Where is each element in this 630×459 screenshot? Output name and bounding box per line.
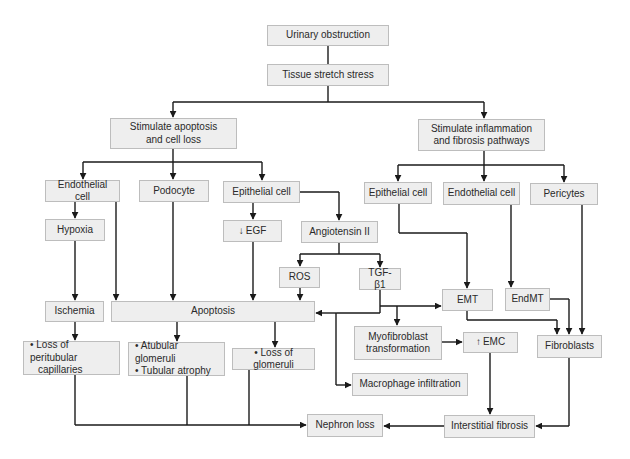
node-atubular-tubular: • Atubular glomeruli • Tubular atrophy (128, 342, 225, 376)
node-label: Urinary obstruction (286, 29, 370, 42)
node-label: Fibroblasts (545, 340, 594, 353)
node-label-line2: and fibrosis pathways (431, 135, 532, 148)
node-urinary-obstruction: Urinary obstruction (267, 25, 389, 46)
node-ischemia: Ischemia (45, 301, 104, 322)
node-nephron-loss: Nephron loss (307, 414, 383, 437)
node-label-line1: Stimulate apoptosis (130, 121, 217, 134)
node-epithelial-cell-left: Epithelial cell (223, 181, 300, 203)
node-label: Podocyte (153, 185, 195, 198)
node-label: Angiotensin II (309, 226, 370, 239)
node-endothelial-cell-left: Endothelial cell (45, 180, 120, 202)
node-apoptosis: Apoptosis (111, 301, 315, 322)
node-label: Epithelial cell (232, 186, 290, 199)
node-label-line2: capillaries (30, 364, 116, 377)
node-macrophage-infiltration: Macrophage infiltration (352, 373, 468, 396)
node-label: EMT (457, 294, 478, 307)
node-podocyte: Podocyte (139, 180, 209, 202)
node-label-line1: Stimulate inflammation (431, 123, 532, 136)
node-label-line2: transformation (366, 343, 430, 356)
node-label: EndMT (511, 293, 543, 306)
node-label: ROS (289, 271, 311, 284)
node-ros: ROS (279, 267, 320, 288)
node-label: TGF-β1 (363, 267, 397, 292)
node-loss-peritubular-capillaries: • Loss of peritubular capillaries (23, 341, 120, 375)
node-label: Nephron loss (316, 419, 375, 432)
flowchart-canvas: Urinary obstruction Tissue stretch stres… (0, 0, 630, 459)
node-label: Pericytes (543, 188, 584, 201)
node-interstitial-fibrosis: Interstitial fibrosis (444, 415, 535, 438)
node-endothelial-cell-right: Endothelial cell (443, 182, 520, 205)
node-fibroblasts: Fibroblasts (537, 335, 602, 358)
node-angiotensin-ii: Angiotensin II (301, 221, 378, 243)
node-stimulate-apoptosis: Stimulate apoptosis and cell loss (110, 118, 237, 149)
node-label: EMC (483, 336, 505, 349)
node-label-line1: • Loss of peritubular (30, 339, 116, 364)
node-label-line2: and cell loss (130, 134, 217, 147)
node-stimulate-inflammation: Stimulate inflammation and fibrosis path… (418, 119, 545, 151)
node-label-line1: Myofibroblast (366, 331, 430, 344)
node-label: Ischemia (54, 305, 94, 318)
up-arrow-icon: ↑ (476, 336, 481, 349)
node-label: Apoptosis (191, 305, 235, 318)
node-label: • Loss of glomeruli (236, 347, 311, 372)
node-hypoxia: Hypoxia (45, 219, 105, 241)
node-tissue-stretch-stress: Tissue stretch stress (267, 64, 389, 86)
node-label: Interstitial fibrosis (451, 420, 528, 433)
node-tgf-beta1: TGF-β1 (359, 268, 401, 290)
node-loss-of-glomeruli: • Loss of glomeruli (232, 348, 315, 370)
node-myofibroblast-transformation: Myofibroblast transformation (354, 326, 442, 360)
down-arrow-icon: ↓ (239, 225, 244, 238)
node-emt: EMT (442, 289, 493, 311)
node-label: Hypoxia (57, 224, 93, 237)
node-label: Endothelial cell (448, 187, 515, 200)
node-label: Macrophage infiltration (359, 378, 460, 391)
node-label: EGF (246, 225, 267, 238)
node-label-line2: • Tubular atrophy (135, 365, 221, 378)
node-egf: ↓ EGF (223, 220, 282, 242)
node-label: Tissue stretch stress (282, 69, 373, 82)
node-label-line1: • Atubular glomeruli (135, 340, 221, 365)
node-pericytes: Pericytes (530, 183, 598, 205)
node-epithelial-cell-right: Epithelial cell (364, 182, 432, 204)
node-endmt: EndMT (505, 288, 550, 311)
node-label: Epithelial cell (369, 187, 427, 200)
node-label: Endothelial cell (49, 179, 116, 204)
node-emc: ↑ EMC (463, 332, 518, 353)
